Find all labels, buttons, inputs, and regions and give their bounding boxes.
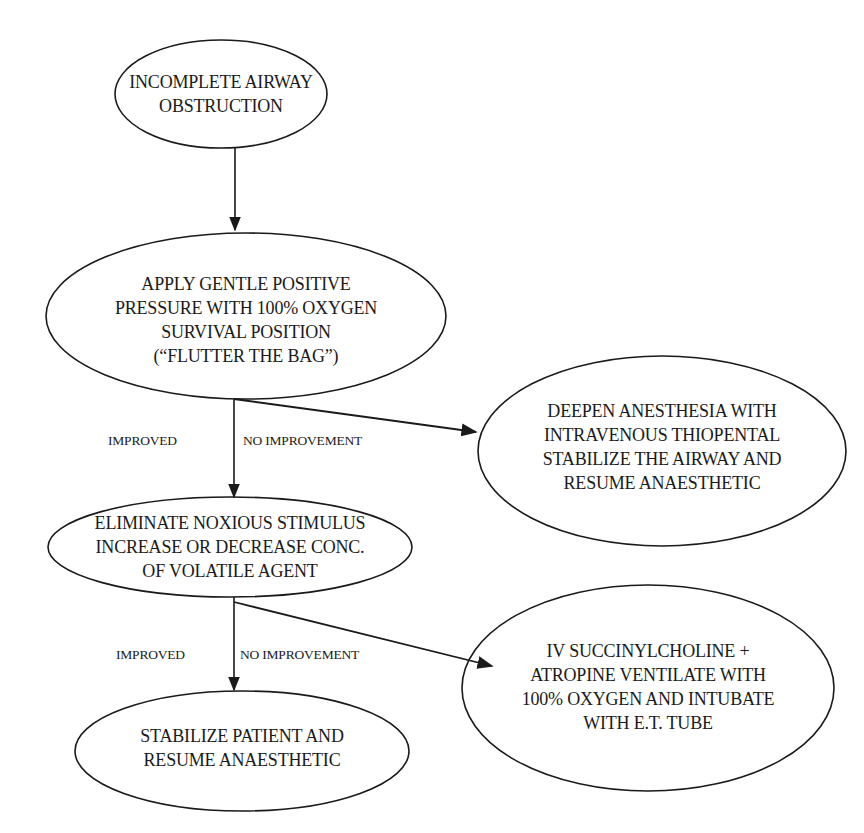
- node-stabilize-patient: STABILIZE PATIENT AND RESUME ANAESTHETIC: [75, 692, 409, 804]
- node-deepen-anesthesia: DEEPEN ANESTHESIA WITH INTRAVENOUS THIOP…: [478, 356, 846, 538]
- node-label: STABILIZE PATIENT AND RESUME ANAESTHETIC: [140, 724, 343, 772]
- node-label: APPLY GENTLE POSITIVE PRESSURE WITH 100%…: [115, 272, 377, 368]
- node-label: ELIMINATE NOXIOUS STIMULUS INCREASE OR D…: [95, 511, 366, 583]
- node-eliminate-noxious-stimulus: ELIMINATE NOXIOUS STIMULUS INCREASE OR D…: [48, 498, 412, 596]
- edge-label-improved-1: IMPROVED: [108, 433, 177, 449]
- edge-pressure-no-improvement: [234, 399, 476, 432]
- node-label: IV SUCCINYLCHOLINE + ATROPINE VENTILATE …: [522, 639, 775, 735]
- edge-label-improved-2: IMPROVED: [116, 647, 185, 663]
- edge-label-no-improvement-1: NO IMPROVEMENT: [243, 433, 362, 449]
- node-label: INCOMPLETE AIRWAY OBSTRUCTION: [129, 70, 312, 118]
- node-label: DEEPEN ANESTHESIA WITH INTRAVENOUS THIOP…: [543, 399, 782, 495]
- node-iv-succinylcholine: IV SUCCINYLCHOLINE + ATROPINE VENTILATE …: [462, 592, 834, 782]
- node-apply-positive-pressure: APPLY GENTLE POSITIVE PRESSURE WITH 100%…: [46, 240, 446, 400]
- edge-label-no-improvement-2: NO IMPROVEMENT: [240, 647, 359, 663]
- node-incomplete-airway-obstruction: INCOMPLETE AIRWAY OBSTRUCTION: [115, 40, 327, 148]
